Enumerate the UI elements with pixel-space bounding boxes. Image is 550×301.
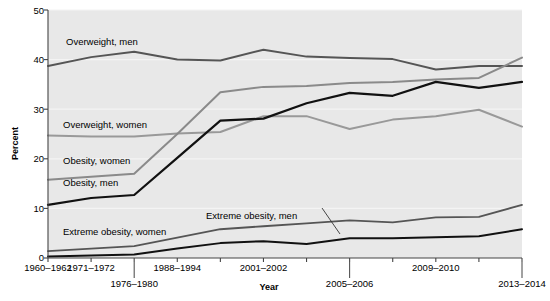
x-tick-label-2001-2002: 2001–2002	[231, 262, 295, 273]
x-tick-label-1971-1972: 1971–1972	[59, 262, 123, 273]
y-tick-30: 30	[14, 104, 44, 115]
series-line-obesity-men	[48, 82, 522, 205]
x-tick-label-2009-2010: 2009–2010	[404, 262, 468, 273]
annotation-overweight-women: Overweight, women	[63, 119, 147, 130]
annotation-obesity-men: Obesity, men	[63, 177, 118, 188]
x-tick-label-2013-2014: 2013–2014	[490, 278, 550, 289]
annotation-overweight-men: Overweight, men	[66, 36, 138, 47]
y-axis-title: Percent	[10, 127, 20, 160]
y-tick-10: 10	[14, 203, 44, 214]
y-tick-50: 50	[14, 5, 44, 16]
x-tick-label-1976-1980: 1976–1980	[102, 278, 166, 289]
annotation-obesity-women: Obesity, women	[63, 155, 130, 166]
x-tick-label-2005-2006: 2005–2006	[318, 278, 382, 289]
x-axis-title: Year	[0, 282, 538, 292]
y-tick-40: 40	[14, 54, 44, 65]
x-tick-label-1988-1994: 1988–1994	[145, 262, 209, 273]
annotation-extreme-obesity-women: Extreme obesity, women	[63, 226, 166, 237]
annotation-extreme-obesity-men: Extreme obesity, men	[206, 210, 297, 221]
